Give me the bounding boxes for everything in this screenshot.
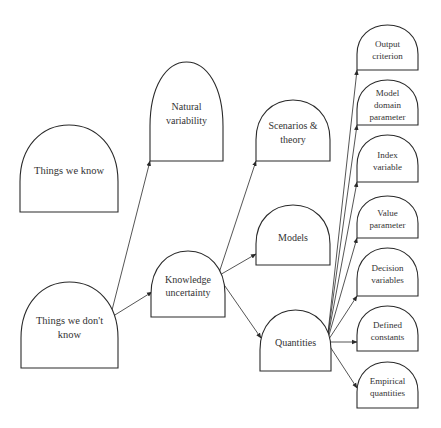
- node-label: domain: [374, 100, 401, 110]
- node-decision: Decisionvariables: [357, 248, 418, 296]
- node-known: Things we know: [20, 125, 118, 212]
- node-label: parameter: [370, 220, 406, 230]
- node-label: Things we don't: [36, 315, 103, 326]
- node-label: constants: [371, 332, 405, 342]
- node-label: Empirical: [370, 376, 406, 386]
- node-label: Output: [375, 39, 401, 49]
- node-label: uncertainty: [166, 287, 211, 298]
- node-label: criterion: [372, 51, 403, 61]
- uncertainty-taxonomy-diagram: Things we knowThings we don'tknowNatural…: [0, 0, 441, 428]
- node-label: variables: [371, 275, 404, 285]
- arrow-quantities-to-model-domain: [327, 125, 357, 342]
- node-label: Value: [377, 208, 398, 218]
- node-label: Quantities: [275, 337, 316, 348]
- node-quantities: Quantities: [260, 310, 331, 371]
- node-label: Things we know: [34, 165, 104, 176]
- arrow-unknown-to-knowledge: [110, 292, 152, 318]
- node-value: Valueparameter: [357, 196, 418, 238]
- node-label: Model: [376, 88, 400, 98]
- node-label: know: [58, 329, 82, 340]
- node-label: variability: [166, 115, 207, 126]
- node-label: Index: [377, 150, 398, 160]
- node-model-domain: Modeldomainparameter: [357, 80, 418, 125]
- node-knowledge: Knowledgeuncertainty: [151, 251, 225, 317]
- arrow-quantities-to-value: [327, 238, 357, 342]
- node-label: Knowledge: [165, 274, 212, 285]
- node-label: Natural: [172, 101, 202, 112]
- node-label: theory: [280, 134, 306, 145]
- node-label: quantities: [370, 388, 405, 398]
- node-label: Scenarios &: [268, 120, 317, 131]
- node-unknown: Things we don'tknow: [21, 282, 118, 368]
- node-empirical: Empiricalquantities: [357, 362, 418, 408]
- arrow-knowledge-to-scenarios: [218, 161, 256, 276]
- node-label: Defined: [373, 320, 402, 330]
- node-defined: Definedconstants: [357, 306, 418, 351]
- node-output: Outputcriterion: [357, 25, 418, 70]
- node-label: variable: [373, 162, 402, 172]
- node-scenarios: Scenarios &theory: [256, 100, 330, 161]
- node-index: Indexvariable: [357, 135, 418, 182]
- nodes: Things we knowThings we don'tknowNatural…: [20, 25, 418, 408]
- node-natural: Naturalvariability: [150, 62, 223, 161]
- node-label: parameter: [370, 112, 406, 122]
- arrow-knowledge-to-models: [218, 254, 256, 276]
- node-label: Decision: [372, 263, 404, 273]
- node-label: Models: [278, 232, 308, 243]
- node-models: Models: [256, 205, 330, 265]
